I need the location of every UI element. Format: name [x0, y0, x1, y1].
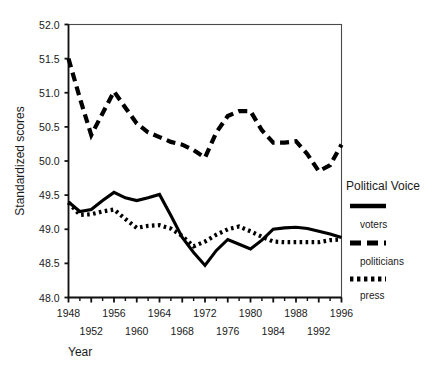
x-tick-label-top: 1980 [239, 307, 263, 319]
legend-title: Political Voice [346, 179, 420, 193]
x-tick-label-bottom: 1968 [171, 325, 195, 337]
x-tick-label-bottom: 1960 [125, 325, 149, 337]
y-tick-label: 51.0 [39, 87, 60, 99]
y-tick-label: 52.0 [39, 19, 60, 31]
x-tick-label-top: 1948 [57, 307, 81, 319]
x-tick-label-bottom: 1984 [262, 325, 286, 337]
y-tick-label: 48.0 [39, 292, 60, 304]
x-tick-label-top: 1988 [284, 307, 308, 319]
line-chart: 48.048.549.049.550.050.551.051.552.0 194… [0, 0, 444, 373]
x-tick-label-top: 1972 [193, 307, 217, 319]
chart-figure: 48.048.549.049.550.050.551.051.552.0 194… [0, 0, 444, 373]
y-tick-label: 49.5 [39, 189, 60, 201]
y-tick-label: 48.5 [39, 257, 60, 269]
y-tick-label: 51.5 [39, 53, 60, 65]
legend-label-politicians: politicians [360, 256, 404, 267]
x-tick-label-top: 1996 [330, 307, 354, 319]
y-axis-title: Standardized scores [13, 106, 27, 215]
x-axis-title: Year [68, 345, 92, 359]
x-tick-label-bottom: 1976 [216, 325, 240, 337]
y-tick-label: 50.5 [39, 121, 60, 133]
x-tick-label-top: 1956 [102, 307, 126, 319]
legend-label-press: press [360, 290, 384, 301]
x-tick-label-top: 1964 [148, 307, 172, 319]
y-tick-label: 49.0 [39, 223, 60, 235]
x-tick-label-bottom: 1992 [307, 325, 331, 337]
legend-label-voters: voters [360, 219, 387, 230]
x-tick-label-bottom: 1952 [80, 325, 104, 337]
y-tick-label: 50.0 [39, 155, 60, 167]
